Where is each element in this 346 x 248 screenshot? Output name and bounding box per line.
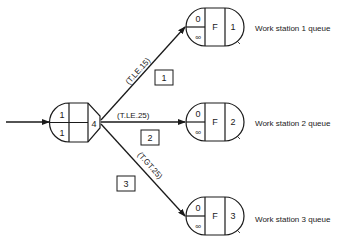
queue-2-number: 2	[230, 117, 235, 127]
queue-1-rule: F	[212, 22, 218, 32]
queue-3-capacity: ∞	[195, 222, 201, 231]
queue-3-rule: F	[212, 211, 218, 221]
queue-1-initial: 0	[195, 14, 200, 24]
queue-3-number: 3	[230, 211, 235, 221]
branch-1-condition: (T.LE.15)	[124, 56, 153, 86]
activity-box-3[interactable]: 3	[117, 176, 135, 191]
queue-2-label: Work station 2 queue	[255, 119, 331, 128]
queue-3-label: Work station 3 queue	[255, 215, 331, 224]
svg-text:1: 1	[161, 73, 166, 83]
source-right: 4	[91, 119, 96, 129]
queue-node-3[interactable]: 0 ∞ F 3	[186, 197, 244, 235]
queue-2-initial: 0	[195, 109, 200, 119]
branch-2-condition: (T.LE.25)	[117, 111, 150, 120]
svg-text:3: 3	[123, 179, 128, 189]
source-top-left: 1	[59, 110, 64, 120]
activity-box-2[interactable]: 2	[141, 130, 159, 145]
svg-text:2: 2	[147, 133, 152, 143]
queue-1-number: 1	[230, 22, 235, 32]
source-node[interactable]: 1 1 4	[50, 103, 100, 142]
queue-node-1[interactable]: 0 ∞ F 1	[186, 8, 244, 46]
queue-3-initial: 0	[195, 203, 200, 213]
queue-node-2[interactable]: 0 ∞ F 2	[186, 103, 244, 141]
queue-2-capacity: ∞	[195, 128, 201, 137]
source-bottom-left: 1	[59, 128, 64, 138]
activity-box-1[interactable]: 1	[155, 70, 173, 85]
queue-2-rule: F	[212, 117, 218, 127]
queue-1-label: Work station 1 queue	[255, 24, 331, 33]
queue-1-capacity: ∞	[195, 33, 201, 42]
